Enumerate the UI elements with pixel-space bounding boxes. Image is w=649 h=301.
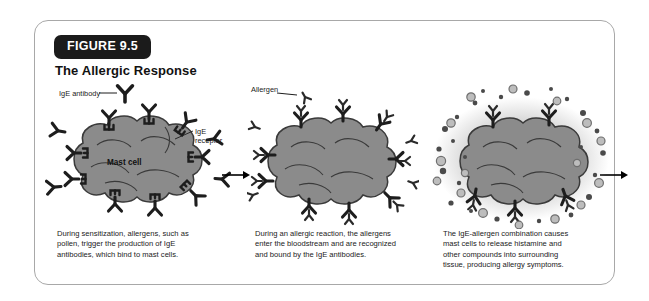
caption-degranulation: The IgE-allergen combination causes mast… (443, 229, 603, 270)
figure-box: FIGURE 9.5 The Allergic Response (34, 20, 615, 285)
panel-sensitization: IgE antibody Mast cell IgE receptor Duri… (45, 83, 241, 273)
mast-cell-body (460, 118, 588, 204)
panel-allergic-reaction-art (247, 83, 419, 229)
panel-allergic-reaction: Allergen During an allergic reaction, th… (247, 83, 419, 273)
label-ige-antibody: IgE antibody (59, 89, 100, 98)
label-allergen: Allergen (251, 85, 278, 94)
figure-title: The Allergic Response (55, 63, 197, 78)
caption-sensitization: During sensitization, allergens, such as… (57, 229, 233, 260)
ige-antibody-icon (118, 86, 133, 102)
caption-allergic-reaction: During an allergic reaction, the allerge… (255, 229, 423, 260)
allergen-icon (299, 91, 311, 104)
panel-degranulation: The IgE-allergen combination causes mast… (431, 83, 611, 273)
figure-number-badge: FIGURE 9.5 (54, 35, 151, 59)
label-mast-cell: Mast cell (107, 158, 142, 167)
panel-sensitization-art (45, 83, 241, 229)
panel-degranulation-art (431, 83, 611, 229)
label-ige-receptor: IgE receptor (195, 127, 222, 145)
